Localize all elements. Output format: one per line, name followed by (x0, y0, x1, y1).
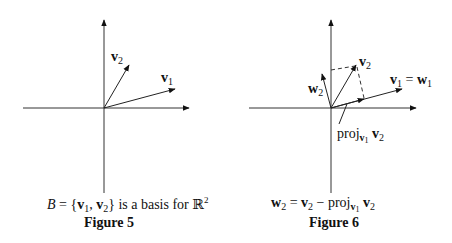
label-w2: w2 (308, 82, 323, 96)
vector-v2 (331, 65, 356, 108)
dashed-perpendicular (357, 67, 364, 98)
figure-6-title: Figure 6 (309, 216, 359, 230)
label-v2: v2 (359, 55, 371, 69)
dashed-parallel-top (331, 66, 355, 70)
vector-v1 (104, 89, 175, 108)
figure-5-caption: B = {v1, v2} is a basis for ℝ2 (47, 196, 208, 212)
label-proj-v1-v2: projv1 v2 (337, 127, 384, 141)
label-v1: v1 (161, 71, 173, 85)
proj-pointer (339, 104, 347, 124)
figure-5-title: Figure 5 (84, 216, 134, 230)
label-v1-equals-w1: v1 = w1 (390, 73, 432, 87)
vector-w2 (322, 74, 331, 108)
figure-6-graphic (249, 20, 416, 193)
label-v2: v2 (111, 50, 123, 64)
figure-5-graphic (23, 20, 189, 193)
figure-6-caption: w2 = v2 − projv1 v2 (271, 196, 375, 210)
vector-v2 (104, 65, 129, 108)
